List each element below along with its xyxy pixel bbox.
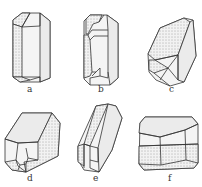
- crystal-b: [84, 15, 118, 85]
- label-b: b: [98, 85, 104, 94]
- label-a: a: [27, 85, 32, 94]
- label-f: f: [168, 174, 171, 183]
- label-e: e: [93, 174, 98, 183]
- label-d: d: [27, 174, 33, 183]
- crystal-d: [5, 113, 60, 172]
- crystal-a: [13, 13, 50, 82]
- label-c: c: [169, 85, 174, 94]
- crystal-f: [139, 117, 198, 170]
- crystal-c: [148, 18, 196, 86]
- crystal-e: [78, 104, 122, 172]
